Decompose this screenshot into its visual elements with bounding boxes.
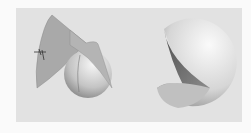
- right-figure: [157, 18, 237, 108]
- left-figure: [34, 15, 112, 98]
- figure-canvas: [0, 0, 251, 133]
